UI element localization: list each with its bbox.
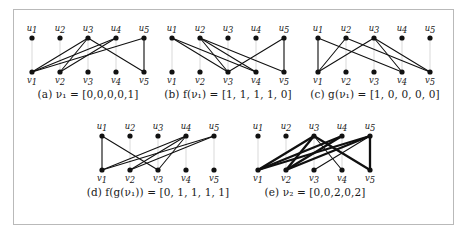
node-label-u5: u5 xyxy=(425,23,436,35)
node-v2 xyxy=(57,69,62,74)
node-u2 xyxy=(283,133,288,138)
node-label-v2: v2 xyxy=(281,173,291,185)
panel-a-caption: (a) ν₁ = [0,0,0,0,1] xyxy=(22,88,154,100)
panel-c-graph: u1v1u2v2u3v3u4v4u5v5 xyxy=(308,16,436,88)
node-v4 xyxy=(113,69,118,74)
node-label-v3: v3 xyxy=(83,75,93,87)
node-v3 xyxy=(371,69,376,74)
node-label-u3: u3 xyxy=(369,23,380,35)
node-label-u2: u2 xyxy=(281,121,292,133)
bipartite-graph-c: u1v1u2v2u3v3u4v4u5v5 xyxy=(308,16,436,88)
panel-d-caption: (d) f(g(ν₁)) = [0, 1, 1, 1, 1] xyxy=(82,186,234,198)
node-label-v2: v2 xyxy=(55,75,65,87)
panel-a-graph: u1v1u2v2u3v3u4v4u5v5 xyxy=(22,16,150,88)
node-label-u2: u2 xyxy=(195,23,206,35)
node-u2 xyxy=(197,35,202,40)
node-label-v4: v4 xyxy=(111,75,121,87)
node-label-u5: u5 xyxy=(365,121,376,133)
node-u1 xyxy=(29,35,34,40)
node-label-v4: v4 xyxy=(181,173,191,185)
node-v1 xyxy=(255,167,260,172)
node-label-u1: u1 xyxy=(253,121,264,133)
node-v5 xyxy=(427,69,432,74)
graph-edge xyxy=(374,38,402,72)
node-label-u2: u2 xyxy=(341,23,352,35)
node-u3 xyxy=(371,35,376,40)
node-u1 xyxy=(315,35,320,40)
panel-e-caption: (e) ν₂ = [0,0,2,0,2] xyxy=(242,186,388,198)
node-v1 xyxy=(169,69,174,74)
node-v2 xyxy=(343,69,348,74)
node-label-v2: v2 xyxy=(341,75,351,87)
node-label-v5: v5 xyxy=(425,75,435,87)
node-v2 xyxy=(197,69,202,74)
graph-edge xyxy=(60,38,88,72)
node-v1 xyxy=(315,69,320,74)
node-v2 xyxy=(127,167,132,172)
node-label-u1: u1 xyxy=(97,121,108,133)
bipartite-graph-b: u1v1u2v2u3v3u4v4u5v5 xyxy=(162,16,290,88)
node-v3 xyxy=(155,167,160,172)
node-label-v4: v4 xyxy=(397,75,407,87)
node-u2 xyxy=(127,133,132,138)
graph-edge xyxy=(318,38,402,72)
node-label-u3: u3 xyxy=(83,23,94,35)
node-label-u3: u3 xyxy=(153,121,164,133)
node-v5 xyxy=(367,167,372,172)
node-u3 xyxy=(155,133,160,138)
node-u3 xyxy=(311,133,316,138)
node-u5 xyxy=(427,35,432,40)
node-v4 xyxy=(183,167,188,172)
node-label-v5: v5 xyxy=(139,75,149,87)
node-label-u4: u4 xyxy=(181,121,192,133)
node-label-u5: u5 xyxy=(139,23,150,35)
node-label-v1: v1 xyxy=(167,75,177,87)
node-label-u3: u3 xyxy=(223,23,234,35)
node-v5 xyxy=(281,69,286,74)
node-label-v3: v3 xyxy=(153,173,163,185)
node-label-v3: v3 xyxy=(223,75,233,87)
node-label-u4: u4 xyxy=(397,23,408,35)
node-u3 xyxy=(225,35,230,40)
node-label-v4: v4 xyxy=(337,173,347,185)
graph-edge xyxy=(130,136,214,170)
graph-edge xyxy=(102,136,186,170)
node-v5 xyxy=(211,167,216,172)
node-u1 xyxy=(255,133,260,138)
node-u4 xyxy=(399,35,404,40)
node-v4 xyxy=(339,167,344,172)
node-u2 xyxy=(343,35,348,40)
node-u4 xyxy=(253,35,258,40)
node-label-v3: v3 xyxy=(369,75,379,87)
node-u4 xyxy=(113,35,118,40)
panel-c-caption: (c) g(ν₁) = [1, 0, 0, 0, 0] xyxy=(302,88,448,100)
node-u4 xyxy=(183,133,188,138)
node-label-u5: u5 xyxy=(279,23,290,35)
node-u1 xyxy=(99,133,104,138)
node-label-v1: v1 xyxy=(97,173,107,185)
node-label-v4: v4 xyxy=(251,75,261,87)
node-label-v2: v2 xyxy=(195,75,205,87)
panel-b-caption: (b) f(ν₁) = [1, 1, 1, 1, 0] xyxy=(158,88,298,100)
node-label-v1: v1 xyxy=(313,75,323,87)
node-u5 xyxy=(141,35,146,40)
graph-edge xyxy=(200,38,228,72)
node-u3 xyxy=(85,35,90,40)
node-u5 xyxy=(211,133,216,138)
node-label-v5: v5 xyxy=(209,173,219,185)
node-label-v5: v5 xyxy=(279,75,289,87)
node-v3 xyxy=(311,167,316,172)
node-label-u1: u1 xyxy=(167,23,178,35)
panel-b-graph: u1v1u2v2u3v3u4v4u5v5 xyxy=(162,16,290,88)
node-label-v1: v1 xyxy=(27,75,37,87)
node-v4 xyxy=(253,69,258,74)
node-v2 xyxy=(283,167,288,172)
node-label-v5: v5 xyxy=(365,173,375,185)
node-label-u1: u1 xyxy=(27,23,38,35)
node-label-u4: u4 xyxy=(251,23,262,35)
node-label-v3: v3 xyxy=(309,173,319,185)
node-label-v1: v1 xyxy=(253,173,263,185)
node-u5 xyxy=(367,133,372,138)
node-v1 xyxy=(99,167,104,172)
node-u1 xyxy=(169,35,174,40)
